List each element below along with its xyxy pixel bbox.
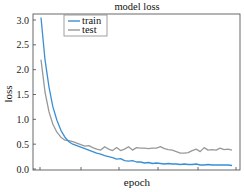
legend-test-label: test xyxy=(82,24,97,35)
legend: train test xyxy=(64,15,107,36)
y-tick-label: 1.5 xyxy=(17,89,30,100)
y-axis-label: loss xyxy=(2,85,14,102)
loss-chart: model loss 0.00.51.01.52.02.53.0 loss ep… xyxy=(0,0,244,192)
y-tick-label: 0.5 xyxy=(17,139,30,150)
plot-area: 0.00.51.01.52.02.53.0 xyxy=(17,14,241,175)
y-tick-label: 1.0 xyxy=(17,114,30,125)
y-tick-label: 0.0 xyxy=(17,164,30,175)
train-line xyxy=(41,18,232,166)
series-lines xyxy=(41,18,232,166)
y-tick-label: 2.5 xyxy=(17,39,30,50)
x-axis-ticks xyxy=(40,167,236,170)
y-tick-label: 3.0 xyxy=(17,15,30,26)
plot-frame xyxy=(33,14,240,170)
test-line xyxy=(41,60,232,153)
chart-title: model loss xyxy=(114,1,159,12)
x-axis-label: epoch xyxy=(124,176,151,188)
y-tick-label: 2.0 xyxy=(17,64,30,75)
